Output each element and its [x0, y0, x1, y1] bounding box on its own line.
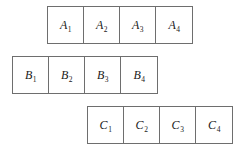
cell-row-b: B1 B2 B3 B4	[12, 56, 158, 94]
cell-c1: C1	[88, 107, 124, 143]
cell-a4: A4	[156, 7, 192, 43]
cell-b4: B4	[121, 57, 157, 93]
cell-c3: C3	[160, 107, 196, 143]
cell-label-a3: A3	[132, 19, 143, 31]
cell-b2: B2	[49, 57, 85, 93]
cell-label-c1: C1	[100, 119, 112, 131]
cell-label-c4: C4	[208, 119, 220, 131]
cell-label-a1: A1	[60, 19, 71, 31]
cell-b3: B3	[85, 57, 121, 93]
cell-label-b3: B3	[97, 69, 108, 81]
cell-row-a: A1 A2 A3 A4	[47, 6, 193, 44]
cell-b1: B1	[13, 57, 49, 93]
diagram-canvas: A1 A2 A3 A4 B1 B2 B3 B4 C1 C2	[0, 0, 245, 152]
cell-label-c3: C3	[172, 119, 184, 131]
cell-label-a4: A4	[168, 19, 179, 31]
cell-label-b4: B4	[133, 69, 144, 81]
cell-a2: A2	[84, 7, 120, 43]
cell-label-c2: C2	[136, 119, 148, 131]
cell-label-b1: B1	[25, 69, 36, 81]
cell-label-b2: B2	[61, 69, 72, 81]
cell-row-c: C1 C2 C3 C4	[87, 106, 233, 144]
cell-label-a2: A2	[96, 19, 107, 31]
cell-a1: A1	[48, 7, 84, 43]
cell-c2: C2	[124, 107, 160, 143]
cell-a3: A3	[120, 7, 156, 43]
cell-c4: C4	[196, 107, 232, 143]
